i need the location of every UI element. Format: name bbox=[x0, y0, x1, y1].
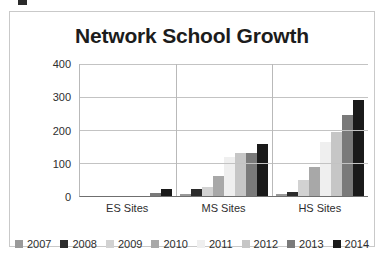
y-tick-label: 400 bbox=[53, 58, 71, 70]
legend-item-2014[interactable]: 2014 bbox=[333, 238, 369, 250]
legend-item-2013[interactable]: 2013 bbox=[287, 238, 323, 250]
legend-label: 2014 bbox=[345, 238, 369, 250]
bar bbox=[320, 142, 331, 196]
x-axis-label: HS Sites bbox=[272, 202, 368, 214]
legend-label: 2008 bbox=[72, 238, 96, 250]
bar bbox=[150, 193, 161, 196]
plot-wrapper: 0100200300400 bbox=[46, 64, 368, 197]
legend-swatch-icon bbox=[60, 240, 68, 248]
legend-label: 2011 bbox=[209, 238, 233, 250]
legend-label: 2010 bbox=[163, 238, 187, 250]
legend-item-2010[interactable]: 2010 bbox=[151, 238, 187, 250]
legend-label: 2007 bbox=[27, 238, 51, 250]
legend-swatch-icon bbox=[151, 240, 159, 248]
chart-frame: Network School Growth 0100200300400 ES S… bbox=[9, 11, 375, 247]
gridline bbox=[80, 64, 368, 65]
legend-swatch-icon bbox=[15, 240, 23, 248]
bar bbox=[180, 194, 191, 196]
plot-area bbox=[79, 64, 368, 197]
bar bbox=[161, 189, 172, 196]
bar bbox=[235, 153, 246, 196]
legend-swatch-icon bbox=[197, 240, 205, 248]
chart-legend: 20072008200920102011201220132014 bbox=[22, 238, 362, 250]
gridline bbox=[80, 97, 368, 98]
legend-swatch-icon bbox=[106, 240, 114, 248]
legend-swatch-icon bbox=[287, 240, 295, 248]
legend-item-2009[interactable]: 2009 bbox=[106, 238, 142, 250]
legend-swatch-icon bbox=[242, 240, 250, 248]
bar bbox=[191, 189, 202, 196]
bar bbox=[342, 115, 353, 196]
y-tick-label: 0 bbox=[65, 191, 71, 203]
y-tick-label: 300 bbox=[53, 91, 71, 103]
legend-item-2008[interactable]: 2008 bbox=[60, 238, 96, 250]
bar bbox=[257, 144, 268, 196]
bar bbox=[287, 192, 298, 196]
bar bbox=[298, 180, 309, 196]
legend-label: 2013 bbox=[299, 238, 323, 250]
bar bbox=[276, 194, 287, 196]
legend-swatch-icon bbox=[333, 240, 341, 248]
bar bbox=[213, 176, 224, 196]
category-separator bbox=[176, 64, 177, 196]
chart-title: Network School Growth bbox=[10, 24, 374, 48]
legend-item-2007[interactable]: 2007 bbox=[15, 238, 51, 250]
gridline bbox=[80, 130, 368, 131]
legend-label: 2012 bbox=[254, 238, 278, 250]
y-tick-label: 200 bbox=[53, 125, 71, 137]
legend-item-2012[interactable]: 2012 bbox=[242, 238, 278, 250]
chart-screenshot: Network School Growth 0100200300400 ES S… bbox=[0, 0, 386, 256]
bar bbox=[202, 187, 213, 196]
y-tick-label: 100 bbox=[53, 158, 71, 170]
bar bbox=[309, 167, 320, 196]
legend-item-2011[interactable]: 2011 bbox=[197, 238, 233, 250]
x-axis-labels: ES SitesMS SitesHS Sites bbox=[79, 202, 368, 214]
legend-label: 2009 bbox=[118, 238, 142, 250]
category-separator bbox=[272, 64, 273, 196]
gridline bbox=[80, 163, 368, 164]
y-axis: 0100200300400 bbox=[46, 64, 75, 197]
bar bbox=[246, 153, 257, 196]
bar bbox=[353, 100, 364, 196]
x-axis-label: MS Sites bbox=[175, 202, 271, 214]
cut-off-glyph-artifact bbox=[18, 0, 27, 5]
x-axis-label: ES Sites bbox=[79, 202, 175, 214]
